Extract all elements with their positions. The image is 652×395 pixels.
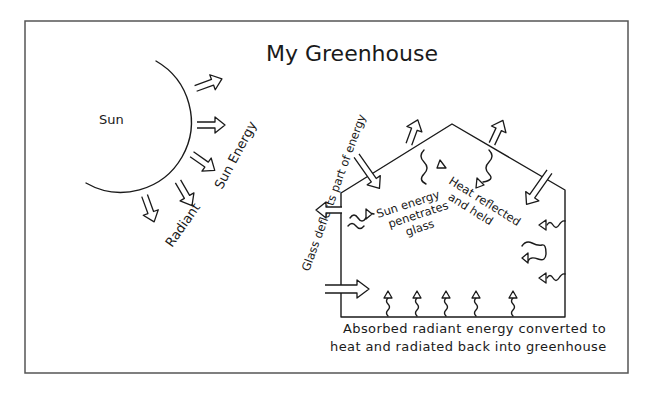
sun-ray-arrow-2 (197, 117, 225, 133)
escape-arrow-right-roof (485, 117, 510, 147)
incoming-arrow-right-roof (520, 167, 556, 209)
floor-heat-arrow-3 (442, 291, 450, 316)
caption-line-1: Absorbed radiant energy converted to (343, 321, 606, 336)
sun-ray-arrow-3 (187, 148, 219, 177)
heat-arrowhead-roof-right (476, 178, 484, 188)
sun-ray-arrow-1 (193, 71, 225, 96)
incoming-arrow-left-wall (325, 280, 369, 298)
radiant-label: Radiant (162, 200, 203, 249)
heat-wave-right-3 (547, 274, 565, 281)
floor-heat-arrow-5 (509, 291, 517, 316)
greenhouse-outline (341, 124, 565, 317)
heat-arrowhead-right-2 (522, 253, 528, 263)
heat-wave-roof-right (483, 150, 492, 182)
heat-arrowhead-right-1 (539, 220, 546, 230)
sun-label: Sun (99, 112, 124, 127)
greenhouse-diagram: My Greenhouse Sun Radiant Sun Energy Gla… (0, 0, 652, 395)
heat-arrowhead-roof-left (437, 160, 446, 168)
floor-heat-arrow-1 (384, 291, 392, 316)
caption-line-2: heat and radiated back into greenhouse (330, 339, 607, 354)
sun-ray-arrow-5 (137, 193, 162, 225)
heat-wave-left-2 (348, 224, 364, 229)
floor-heat-arrow-2 (413, 291, 421, 316)
heat-arrowhead-left (366, 209, 372, 219)
heat-wave-roof-left (421, 150, 427, 184)
heat-wave-right-1 (547, 221, 565, 228)
heat-arrowhead-right-3 (539, 273, 546, 283)
sun-penetrate-arrow (350, 151, 386, 193)
sun-energy-penetrates-label: Sun energy penetrates glass (375, 186, 455, 246)
floor-heat-arrow-4 (472, 291, 480, 316)
glass-deflects-label: Glass deflects part of energy (299, 112, 369, 273)
diagram-title: My Greenhouse (266, 41, 438, 66)
